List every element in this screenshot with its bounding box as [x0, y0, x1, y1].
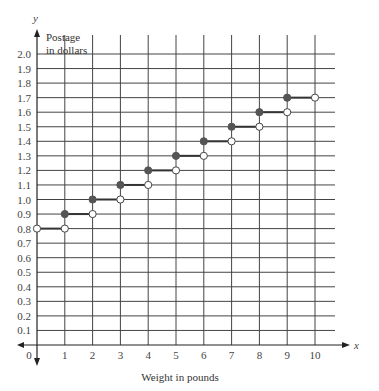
x-tick-label: 10: [310, 349, 322, 361]
x-axis-left-arrow-icon: [17, 342, 24, 348]
x-tick-label: 2: [90, 349, 96, 361]
x-tick-label: 3: [118, 349, 124, 361]
open-endpoint-dot: [256, 123, 263, 130]
y-tick-label: 1.7: [17, 92, 31, 104]
x-tick-label: 8: [257, 349, 263, 361]
open-endpoint-dot: [284, 109, 291, 116]
closed-endpoint-dot: [172, 152, 179, 159]
closed-endpoint-dot: [284, 94, 291, 101]
open-endpoint-dot: [61, 225, 68, 232]
y-tick-label: 0.5: [17, 266, 31, 278]
y-tick-label: 1.3: [17, 150, 31, 162]
y-tick-label: 2.0: [17, 48, 31, 60]
open-endpoint-dot: [200, 152, 207, 159]
closed-endpoint-dot: [61, 210, 68, 217]
open-endpoint-dot: [117, 196, 124, 203]
y-axis-label-line1: Postage: [46, 31, 80, 43]
y-tick-label: 1.0: [17, 194, 31, 206]
x-axis-variable: x: [353, 339, 359, 351]
y-tick-label: 0.9: [17, 208, 31, 220]
y-tick-label: 0.3: [17, 295, 31, 307]
y-tick-label: 1.5: [17, 121, 31, 133]
y-tick-label: 1.4: [17, 135, 31, 147]
y-tick-label: 1.8: [17, 77, 31, 89]
x-tick-label: 9: [284, 349, 290, 361]
y-axis-down-arrow-icon: [34, 358, 40, 366]
y-tick-label: 1.6: [17, 106, 31, 118]
closed-endpoint-dot: [256, 109, 263, 116]
y-tick-label: 0.6: [17, 252, 31, 264]
x-tick-label: 0: [26, 349, 32, 361]
x-axis-label: Weight in pounds: [141, 371, 218, 383]
open-endpoint-dot: [145, 181, 152, 188]
closed-endpoint-dot: [200, 138, 207, 145]
open-endpoint-dot: [89, 210, 96, 217]
y-tick-label: 0.4: [17, 281, 31, 293]
x-axis-right-arrow-icon: [342, 342, 350, 348]
grid-lines: [37, 35, 335, 345]
y-tick-label: 1.2: [17, 164, 31, 176]
x-tick-label: 1: [62, 349, 68, 361]
y-axis-label-line2: in dollars: [46, 44, 87, 56]
y-tick-label: 1.1: [17, 179, 31, 191]
y-tick-label: 1.9: [17, 63, 31, 75]
closed-endpoint-dot: [228, 123, 235, 130]
open-endpoint-dot: [33, 225, 40, 232]
x-tick-label: 5: [173, 349, 179, 361]
open-endpoint-dot: [311, 94, 318, 101]
y-axis-variable: y: [32, 12, 38, 24]
tick-labels: 0.10.20.30.40.50.60.70.80.91.01.11.21.31…: [17, 48, 321, 361]
closed-endpoint-dot: [89, 196, 96, 203]
x-tick-label: 7: [229, 349, 235, 361]
closed-endpoint-dot: [117, 181, 124, 188]
y-tick-label: 0.7: [17, 237, 31, 249]
x-tick-label: 6: [201, 349, 207, 361]
x-tick-label: 4: [145, 349, 151, 361]
open-endpoint-dot: [228, 138, 235, 145]
y-tick-label: 0.1: [17, 324, 31, 336]
closed-endpoint-dot: [145, 167, 152, 174]
open-endpoint-dot: [172, 167, 179, 174]
postage-step-chart: 0.10.20.30.40.50.60.70.80.91.01.11.21.31…: [0, 0, 379, 391]
y-tick-label: 0.2: [17, 310, 31, 322]
y-axis-up-arrow-icon: [34, 29, 40, 37]
y-tick-label: 0.8: [17, 223, 31, 235]
